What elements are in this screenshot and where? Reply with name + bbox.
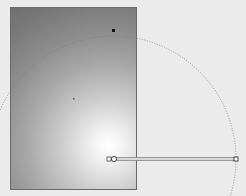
gradient-focus-square-handle[interactable]	[107, 157, 111, 161]
gradient-radius-bar[interactable]	[116, 158, 236, 161]
drawing-canvas[interactable]	[0, 0, 246, 196]
gradient-radius-end-handle[interactable]	[234, 157, 238, 161]
gradient-midpoint-marker	[73, 98, 75, 100]
gradient-radius-guide-circle	[0, 36, 236, 196]
gradient-top-handle[interactable]	[112, 29, 115, 32]
radial-gradient-editor-overlay	[0, 0, 246, 196]
gradient-center-handle[interactable]	[111, 156, 116, 161]
